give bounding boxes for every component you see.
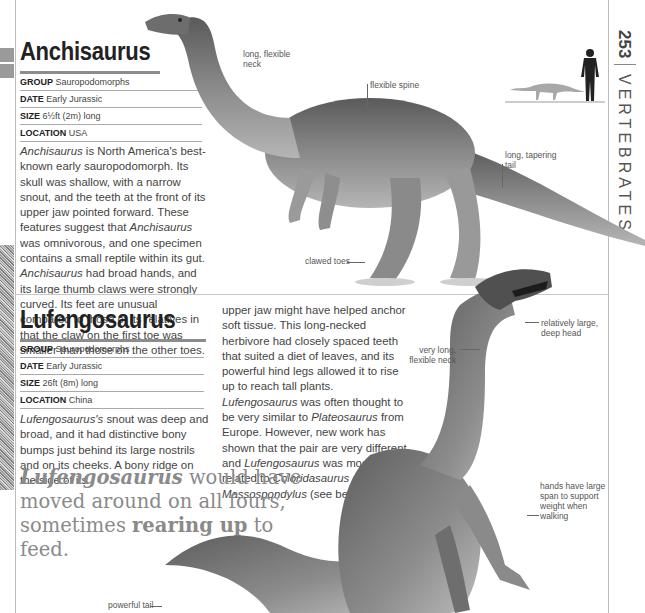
label-flexible-spine: flexible spine — [370, 80, 419, 90]
leader-line — [150, 606, 162, 607]
leader-line — [347, 262, 365, 263]
label-hands-large-span: hands have large span to support weight … — [540, 481, 606, 521]
leader-line — [525, 322, 539, 323]
leader-line — [367, 84, 368, 116]
anchisaurus-text-run: Anchisaurus — [20, 145, 83, 157]
textured-edge-strip — [0, 245, 14, 490]
label-very-long-flexible-neck: very long, flexible neck — [396, 345, 456, 365]
label-long-flexible-neck: long, flexible neck — [243, 49, 303, 69]
leader-line — [527, 515, 539, 516]
dinosaur-silhouette-icon — [510, 83, 585, 100]
human-silhouette-icon — [581, 49, 599, 101]
label-long-tapering-tail: long, tapering tail — [505, 150, 565, 170]
scale-comparison — [505, 45, 605, 105]
left-margin-line — [15, 0, 16, 613]
lufengosaurus-illustration — [150, 265, 580, 613]
label-powerful-tail: powerful tail — [108, 600, 153, 610]
leader-line — [460, 349, 480, 350]
label-relatively-large-deep-head: relatively large, deep head — [541, 318, 606, 338]
anchisaurus-text-run: Anchisaurus — [20, 267, 83, 279]
thumb-tab-lower — [0, 64, 14, 78]
leader-line — [502, 164, 503, 188]
lufengosaurus-text-run: Lufengosaurus's — [20, 413, 103, 425]
thumb-tab-upper — [0, 48, 14, 62]
